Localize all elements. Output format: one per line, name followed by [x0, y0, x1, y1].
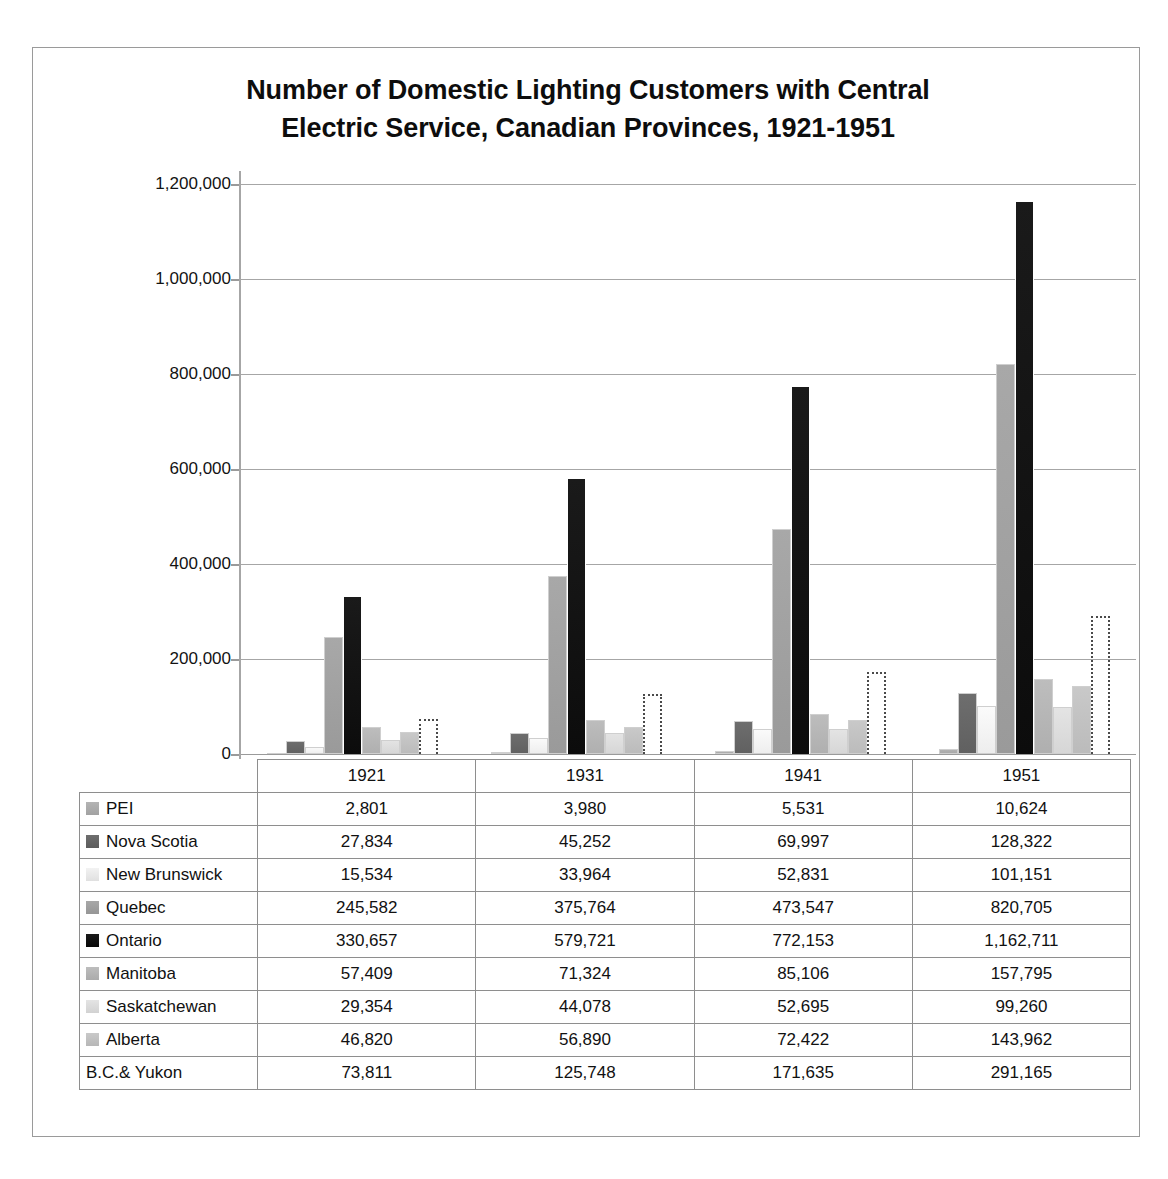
table-column-header-1931: 1931	[476, 760, 694, 793]
legend-label: Quebec	[106, 898, 166, 918]
table-cell-1921: 29,354	[258, 991, 476, 1024]
bar-nova-scotia-1931	[510, 733, 529, 754]
bar-b-c-yukon-1931	[643, 694, 662, 754]
legend-label: PEI	[106, 799, 133, 819]
legend-label: Saskatchewan	[106, 997, 217, 1017]
bar-quebec-1921	[324, 637, 343, 754]
y-axis-tick-label: 400,000	[101, 554, 231, 574]
bar-nova-scotia-1921	[286, 741, 305, 754]
bar-fill	[1015, 202, 1034, 754]
bar-fill	[419, 719, 438, 754]
bar-fill	[1034, 679, 1053, 754]
bar-fill	[753, 729, 772, 754]
y-axis-tick-labels: 1,200,0001,000,000800,000600,000400,0002…	[71, 171, 231, 765]
bar-b-c-yukon-1951	[1091, 616, 1110, 754]
legend-swatch-icon	[86, 868, 99, 881]
legend-label: Nova Scotia	[106, 832, 198, 852]
bar-fill	[810, 714, 829, 754]
table-cell-1931: 44,078	[476, 991, 694, 1024]
chart-title: Number of Domestic Lighting Customers wi…	[103, 71, 1073, 148]
table-series-label: PEI	[80, 793, 258, 826]
table-cell-1951: 291,165	[912, 1057, 1130, 1090]
bar-fill	[400, 732, 419, 754]
legend-label: New Brunswick	[106, 865, 222, 885]
table-cell-1931: 579,721	[476, 925, 694, 958]
bar-fill	[491, 752, 510, 754]
bar-fill	[362, 727, 381, 754]
bar-fill	[977, 706, 996, 754]
bars-layer	[241, 171, 1136, 765]
table-series-label: Saskatchewan	[80, 991, 258, 1024]
legend-label: Alberta	[106, 1030, 160, 1050]
table-series-label: B.C.& Yukon	[80, 1057, 258, 1090]
bar-fill	[848, 720, 867, 754]
table-row: Alberta46,82056,89072,422143,962	[80, 1024, 1131, 1057]
bar-saskatchewan-1931	[605, 733, 624, 754]
bar-fill	[586, 720, 605, 754]
bar-quebec-1941	[772, 529, 791, 754]
table-cell-1951: 99,260	[912, 991, 1130, 1024]
bar-b-c-yukon-1921	[419, 719, 438, 754]
table-cell-1931: 56,890	[476, 1024, 694, 1057]
table-column-header-1941: 1941	[694, 760, 912, 793]
bar-ontario-1951	[1015, 202, 1034, 754]
y-axis-tick-label: 800,000	[101, 364, 231, 384]
bar-alberta-1951	[1072, 686, 1091, 754]
bar-manitoba-1931	[586, 720, 605, 754]
table-row: Quebec245,582375,764473,547820,705	[80, 892, 1131, 925]
table-cell-1941: 772,153	[694, 925, 912, 958]
plot-area: 1,200,0001,000,000800,000600,000400,0002…	[33, 171, 1141, 765]
bar-group-1921	[241, 171, 465, 765]
bar-fill	[1053, 707, 1072, 754]
bar-alberta-1941	[848, 720, 867, 754]
table-row: Manitoba57,40971,32485,106157,795	[80, 958, 1131, 991]
table-column-header-1921: 1921	[258, 760, 476, 793]
legend-swatch-icon	[86, 802, 99, 815]
legend-label: B.C.& Yukon	[86, 1063, 182, 1083]
bar-fill	[958, 693, 977, 754]
table-cell-1921: 245,582	[258, 892, 476, 925]
table-series-label: Ontario	[80, 925, 258, 958]
table-row: PEI2,8013,9805,53110,624	[80, 793, 1131, 826]
legend-swatch-icon	[86, 835, 99, 848]
legend-swatch-icon	[86, 901, 99, 914]
legend-label: Manitoba	[106, 964, 176, 984]
table-cell-1951: 10,624	[912, 793, 1130, 826]
table-row: B.C.& Yukon73,811125,748171,635291,165	[80, 1057, 1131, 1090]
y-axis-tick-label: 1,000,000	[101, 269, 231, 289]
table-cell-1931: 33,964	[476, 859, 694, 892]
figure-frame: Number of Domestic Lighting Customers wi…	[32, 47, 1140, 1137]
bar-nova-scotia-1951	[958, 693, 977, 754]
bar-fill	[605, 733, 624, 754]
table-series-label: New Brunswick	[80, 859, 258, 892]
table-series-label: Nova Scotia	[80, 826, 258, 859]
bar-fill	[510, 733, 529, 754]
bar-manitoba-1951	[1034, 679, 1053, 754]
table-cell-1921: 46,820	[258, 1024, 476, 1057]
table-header-row: 1921193119411951	[80, 760, 1131, 793]
table-cell-1951: 157,795	[912, 958, 1130, 991]
bar-quebec-1931	[548, 576, 567, 754]
table-cell-1931: 3,980	[476, 793, 694, 826]
table-row: Nova Scotia27,83445,25269,997128,322	[80, 826, 1131, 859]
table-cell-1931: 71,324	[476, 958, 694, 991]
table-cell-1931: 45,252	[476, 826, 694, 859]
bar-new-brunswick-1931	[529, 738, 548, 754]
table-cell-1941: 52,831	[694, 859, 912, 892]
bar-fill	[567, 479, 586, 754]
table-corner-cell	[80, 760, 258, 793]
bar-saskatchewan-1941	[829, 729, 848, 754]
bar-fill	[829, 729, 848, 754]
table-cell-1921: 27,834	[258, 826, 476, 859]
y-axis-tick-label: 200,000	[101, 649, 231, 669]
bar-b-c-yukon-1941	[867, 672, 886, 754]
bar-fill	[772, 529, 791, 754]
bar-fill	[529, 738, 548, 754]
bar-fill	[867, 672, 886, 754]
bar-fill	[791, 387, 810, 754]
table-cell-1921: 2,801	[258, 793, 476, 826]
table-cell-1921: 15,534	[258, 859, 476, 892]
bar-fill	[996, 364, 1015, 754]
table-cell-1941: 69,997	[694, 826, 912, 859]
table-cell-1941: 85,106	[694, 958, 912, 991]
